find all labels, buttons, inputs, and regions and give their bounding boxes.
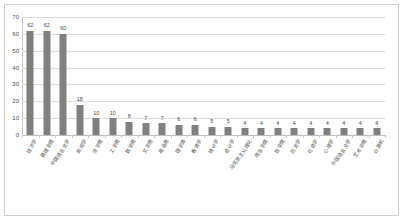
x-tick [171, 135, 172, 138]
x-category-label: 工学类 [108, 139, 121, 154]
x-tick [121, 135, 122, 138]
bar-value-label: 4 [326, 121, 329, 127]
x-tick [352, 135, 353, 138]
bar [43, 31, 50, 136]
bar-value-label: 4 [243, 121, 246, 127]
x-tick [303, 135, 304, 138]
bar-slot: 18 [72, 17, 89, 135]
bar [27, 31, 34, 136]
y-axis-tick-labels: 010203040506070 [0, 17, 19, 135]
x-category-label: 经济学 [26, 139, 39, 154]
x-tick [286, 135, 287, 138]
bar [93, 118, 100, 135]
bar-slot: 5 [204, 17, 221, 135]
bar-value-label: 5 [210, 119, 213, 125]
bar-slot: 6 [187, 17, 204, 135]
bar-slot: 62 [39, 17, 56, 135]
bar [192, 125, 199, 135]
bar-value-label: 10 [93, 111, 99, 117]
x-category-label: 社会学 [306, 139, 319, 154]
y-tick-label: 10 [12, 115, 19, 121]
x-category-label: 管理学类 [39, 139, 55, 158]
bar-slot: 5 [220, 17, 237, 135]
bar-slot: 4 [369, 17, 386, 135]
bar-slot: 4 [352, 17, 369, 135]
y-tick-label: 50 [12, 48, 19, 54]
bar-slot: 62 [22, 17, 39, 135]
bar-value-label: 7 [144, 116, 147, 122]
x-tick [105, 135, 106, 138]
x-category-label: 心理学 [323, 139, 336, 154]
bar-value-label: 60 [60, 26, 66, 32]
bar-value-label: 7 [161, 116, 164, 122]
x-category-label: 历史学 [290, 139, 303, 154]
bar-value-label: 5 [227, 119, 230, 125]
x-tick [385, 135, 386, 138]
bar [324, 128, 331, 135]
x-category-label: 政治学类 [254, 139, 270, 158]
bar [258, 128, 265, 135]
y-tick-label: 60 [12, 31, 19, 37]
bar-slot: 4 [253, 17, 270, 135]
x-tick [270, 135, 271, 138]
bar-value-label: 4 [375, 121, 378, 127]
bar [357, 128, 364, 135]
x-axis-category-labels: 经济学管理学类中国语言文学新闻学法学类工学类数学类文学类英语类理学类教育学统计学… [22, 139, 385, 209]
y-tick-label: 40 [12, 65, 19, 71]
x-tick [237, 135, 238, 138]
bar-value-label: 10 [110, 111, 116, 117]
x-category-label: 英语类 [158, 139, 171, 154]
x-category-label: 哲学类 [273, 139, 286, 154]
bar [291, 128, 298, 135]
bar-slot: 60 [55, 17, 72, 135]
bar [126, 122, 133, 135]
x-tick [55, 135, 56, 138]
x-tick [138, 135, 139, 138]
bar-value-label: 6 [177, 117, 180, 123]
bar-slot: 4 [336, 17, 353, 135]
x-category-label: 教育学 [191, 139, 204, 154]
x-tick [72, 135, 73, 138]
bar-slot: 4 [286, 17, 303, 135]
bar [109, 118, 116, 135]
x-tick [22, 135, 23, 138]
bar [60, 34, 67, 135]
bar-slot: 7 [154, 17, 171, 135]
bar [159, 123, 166, 135]
bar [76, 105, 83, 135]
x-category-label: 统计学 [207, 139, 220, 154]
bar-slot: 4 [303, 17, 320, 135]
x-tick [154, 135, 155, 138]
bar [373, 128, 380, 135]
bar-value-label: 4 [359, 121, 362, 127]
bar-slot: 6 [171, 17, 188, 135]
y-tick-label: 20 [12, 98, 19, 104]
x-tick [336, 135, 337, 138]
plot-area: 6262601810108776655444444444 [22, 17, 385, 135]
x-tick [319, 135, 320, 138]
bar [225, 127, 232, 135]
bar-slot: 4 [237, 17, 254, 135]
bar-slot: 8 [121, 17, 138, 135]
bar [274, 128, 281, 135]
bar [142, 123, 149, 135]
bar-value-label: 4 [309, 121, 312, 127]
x-category-label: 会计学 [224, 139, 237, 154]
bar [208, 127, 215, 135]
bar-slot: 4 [270, 17, 287, 135]
y-tick-label: 0 [16, 132, 19, 138]
x-tick [253, 135, 254, 138]
x-category-label: 艺术学类 [353, 139, 369, 158]
bar-slot: 7 [138, 17, 155, 135]
bar-value-label: 4 [260, 121, 263, 127]
bar-value-label: 4 [342, 121, 345, 127]
x-category-label: 法学类 [92, 139, 105, 154]
bar-slot: 10 [88, 17, 105, 135]
x-category-label: 计算机 [372, 139, 385, 154]
bar-slot: 10 [105, 17, 122, 135]
x-tick [88, 135, 89, 138]
x-tick [204, 135, 205, 138]
bar-value-label: 8 [128, 114, 131, 120]
x-tick [220, 135, 221, 138]
y-tick-label: 30 [12, 81, 19, 87]
